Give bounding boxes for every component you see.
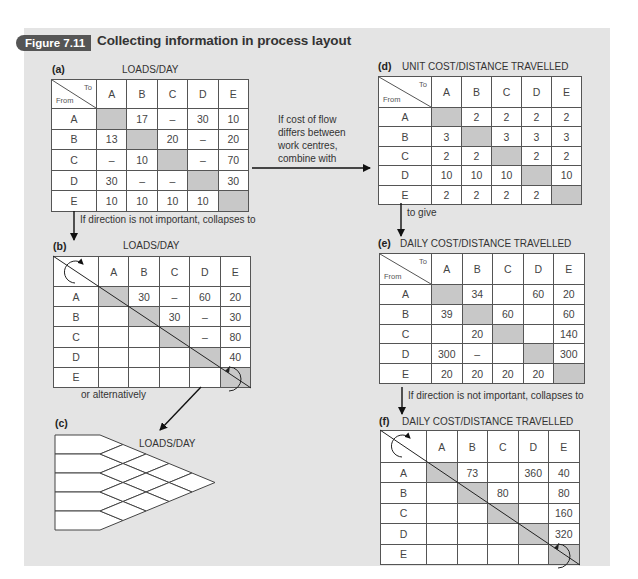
row-header-c: C bbox=[379, 146, 432, 165]
pair-ac: – bbox=[139, 458, 153, 469]
cell-a-c bbox=[493, 285, 524, 305]
cell-c-c bbox=[493, 324, 524, 344]
cell-c-e: 2 bbox=[552, 146, 582, 165]
corner-cell bbox=[54, 257, 99, 287]
table-row: A2222 bbox=[379, 108, 582, 127]
cell-d-d bbox=[518, 524, 549, 544]
column-header-d: D bbox=[190, 257, 220, 287]
pair-de: 40 bbox=[116, 505, 130, 516]
column-header-a: A bbox=[432, 254, 463, 285]
cell-c-d: 2 bbox=[522, 146, 552, 165]
cell-c-e: 70 bbox=[218, 150, 248, 171]
cell-d-d bbox=[188, 170, 218, 191]
table-row: A30–6020 bbox=[54, 287, 251, 307]
cell-b-b bbox=[457, 483, 488, 503]
row-label-d: D bbox=[73, 496, 80, 507]
pair-ad: 60 bbox=[162, 467, 176, 478]
cell-b-c: 60 bbox=[493, 304, 524, 324]
cell-e-b bbox=[457, 544, 488, 564]
panel-e-label: (e) bbox=[378, 237, 391, 249]
column-header-b: B bbox=[127, 80, 157, 109]
row-header-c: C bbox=[54, 327, 99, 347]
cell-c-d: – bbox=[188, 150, 218, 171]
cell-d-b: 10 bbox=[462, 166, 492, 185]
cell-a-e: 2 bbox=[552, 108, 582, 127]
matrix-d-unit-cost: To FromABCDEA2222B3333C2222D10101010E222… bbox=[378, 76, 582, 205]
cell-a-c bbox=[488, 463, 519, 483]
corner-from-to: To From bbox=[380, 254, 432, 285]
figure-badge: Figure 7.11 bbox=[16, 35, 91, 51]
cell-a-e: 40 bbox=[549, 463, 580, 483]
cell-e-d: 10 bbox=[188, 191, 218, 212]
corner-from-to: To From bbox=[52, 80, 97, 109]
cell-b-d: – bbox=[190, 307, 220, 327]
panel-b-title: LOADS/DAY bbox=[123, 240, 180, 251]
figure-title: Collecting information in process layout bbox=[97, 33, 351, 48]
cell-d-a bbox=[99, 347, 129, 367]
cell-a-a bbox=[432, 285, 463, 305]
cell-e-c: 10 bbox=[157, 191, 187, 212]
cell-e-e bbox=[549, 544, 580, 564]
cell-d-a: 30 bbox=[97, 170, 127, 191]
cell-c-c bbox=[488, 503, 519, 523]
cell-a-d: 360 bbox=[518, 463, 549, 483]
table-row: E bbox=[54, 367, 251, 387]
cell-e-a: 10 bbox=[97, 191, 127, 212]
panel-e-title: DAILY COST/DISTANCE TRAVELLED bbox=[400, 238, 571, 249]
cell-e-c bbox=[159, 367, 189, 387]
column-header-c: C bbox=[488, 431, 519, 463]
pair-be: 30 bbox=[162, 486, 176, 497]
cell-e-c bbox=[488, 544, 519, 564]
table-row: E20202020 bbox=[380, 364, 585, 384]
row-header-b: B bbox=[52, 129, 97, 150]
table-row: C–10–70 bbox=[52, 150, 249, 171]
column-header-d: D bbox=[518, 431, 549, 463]
cell-d-b bbox=[457, 524, 488, 544]
cell-b-d: 3 bbox=[522, 127, 552, 146]
column-header-a: A bbox=[97, 80, 127, 109]
cell-a-d: 60 bbox=[190, 287, 220, 307]
panel-d-title: UNIT COST/DISTANCE TRAVELLED bbox=[402, 61, 569, 72]
cell-d-a bbox=[427, 524, 458, 544]
cell-e-b: 2 bbox=[462, 185, 492, 204]
cell-b-e: 60 bbox=[554, 304, 585, 324]
table-row: E2222 bbox=[379, 185, 582, 204]
cell-c-e: 80 bbox=[220, 327, 250, 347]
cell-b-e: 3 bbox=[552, 127, 582, 146]
cell-b-a: 39 bbox=[432, 304, 463, 324]
cell-b-a bbox=[99, 307, 129, 327]
table-row: B396060 bbox=[380, 304, 585, 324]
cell-c-e: 160 bbox=[549, 503, 580, 523]
note-d-to-e: to give bbox=[407, 206, 436, 219]
cell-a-a bbox=[432, 108, 462, 127]
cell-b-e: 30 bbox=[220, 307, 250, 327]
corner-from-label: From bbox=[384, 272, 402, 281]
cell-e-a: 20 bbox=[432, 364, 463, 384]
cell-b-b bbox=[129, 307, 159, 327]
cell-c-b bbox=[457, 503, 488, 523]
pair-ae: 20 bbox=[185, 477, 199, 488]
table-row: B1320–20 bbox=[52, 129, 249, 150]
cell-e-b: 10 bbox=[127, 191, 157, 212]
row-header-d: D bbox=[54, 347, 99, 367]
corner-from-label: From bbox=[383, 95, 401, 104]
cell-d-e: 30 bbox=[218, 170, 248, 191]
cell-d-a: 10 bbox=[432, 166, 462, 185]
matrix-e-daily-cost: To FromABCDEA346020B396060C20140D300–300… bbox=[379, 253, 585, 384]
cell-a-e: 20 bbox=[220, 287, 250, 307]
column-header-d: D bbox=[188, 80, 218, 109]
cell-e-e bbox=[218, 191, 248, 212]
table-row: C20140 bbox=[380, 324, 585, 344]
column-header-d: D bbox=[522, 77, 552, 108]
row-label-b: B bbox=[73, 458, 80, 469]
corner-from-to: To From bbox=[379, 77, 432, 108]
cell-e-e bbox=[554, 364, 585, 384]
corner-to-label: To bbox=[419, 257, 427, 266]
cell-b-b bbox=[127, 129, 157, 150]
cell-d-c: 10 bbox=[492, 166, 522, 185]
cell-c-b: 10 bbox=[127, 150, 157, 171]
cell-c-a bbox=[99, 327, 129, 347]
cell-e-c: 2 bbox=[492, 185, 522, 204]
table-row: C160 bbox=[381, 503, 580, 523]
cell-a-d: 30 bbox=[188, 109, 218, 130]
